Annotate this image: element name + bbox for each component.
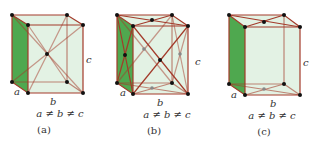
panel-caption: (a) (0, 124, 96, 135)
panel-caption: (b) (102, 125, 206, 136)
axis-label-a: a (120, 87, 126, 98)
axis-label-b: b (50, 96, 56, 107)
axis-label-c: c (86, 54, 92, 65)
axis-label-b: b (157, 97, 163, 108)
lattice-relation: a ≠ b ≠ c (8, 108, 112, 119)
lattice-relation: a ≠ b ≠ c (220, 110, 312, 121)
panel-a-body-centered: a c b a ≠ b ≠ c (a) (0, 0, 104, 148)
lattice-relation: a ≠ b ≠ c (115, 109, 219, 120)
axis-label-a: a (14, 86, 20, 97)
axis-label-c: c (195, 56, 201, 67)
panel-b-face-centered: a c b a ≠ b ≠ c (b) (104, 0, 208, 148)
panel-c-base-centered: a c b a ≠ b ≠ c (c) (208, 0, 312, 148)
axis-label-a: a (231, 89, 237, 100)
panel-caption: (c) (212, 126, 312, 137)
axis-label-c: c (303, 57, 309, 68)
axis-label-b: b (270, 98, 276, 109)
